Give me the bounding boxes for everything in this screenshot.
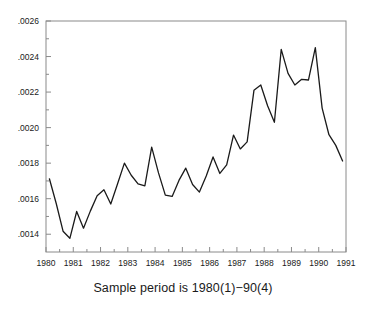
y-tick-label: .0016 (18, 194, 40, 204)
x-tick-label: 1982 (91, 258, 110, 268)
x-tick-label: 1988 (255, 258, 274, 268)
y-axis-tick-labels: .0014.0016.0018.0020.0022.0024.0026 (18, 16, 40, 239)
x-tick-label: 1987 (227, 258, 246, 268)
y-tick-label: .0014 (18, 229, 40, 239)
y-tick-label: .0018 (18, 158, 40, 168)
plot-background (46, 21, 346, 252)
y-tick-label: .0026 (18, 16, 40, 26)
x-tick-label: 1985 (173, 258, 192, 268)
chart-figure: .0014.0016.0018.0020.0022.0024.0026 1980… (0, 0, 366, 310)
y-tick-label: .0020 (18, 123, 40, 133)
x-tick-label: 1991 (337, 258, 356, 268)
y-tick-label: .0024 (18, 52, 40, 62)
line-chart: .0014.0016.0018.0020.0022.0024.0026 1980… (0, 0, 366, 310)
x-axis-tick-labels: 1980198119821983198419851986198719881989… (37, 258, 356, 268)
x-tick-label: 1980 (37, 258, 56, 268)
x-tick-label: 1989 (282, 258, 301, 268)
x-tick-label: 1983 (118, 258, 137, 268)
x-tick-label: 1990 (309, 258, 328, 268)
y-tick-label: .0022 (18, 87, 40, 97)
chart-caption: Sample period is 1980(1)−90(4) (0, 281, 366, 295)
x-tick-label: 1981 (64, 258, 83, 268)
x-tick-label: 1984 (146, 258, 165, 268)
x-tick-label: 1986 (200, 258, 219, 268)
